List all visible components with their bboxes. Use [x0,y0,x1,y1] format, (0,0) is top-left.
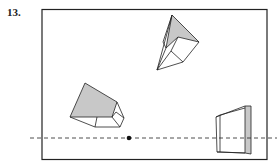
figure-frame [42,10,267,160]
left-box [70,83,124,127]
vanishing-point [127,136,132,141]
perspective-figure [0,0,277,165]
right-wall-panel [216,106,251,154]
top-skewed-box [157,15,199,70]
